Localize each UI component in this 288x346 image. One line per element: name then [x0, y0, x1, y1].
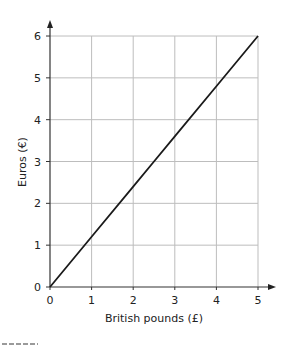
x-tick-label: 2	[130, 294, 137, 307]
cropped-text-fragment	[2, 338, 42, 346]
y-tick-labels: 0123456	[34, 30, 50, 294]
x-tick-label: 4	[213, 294, 220, 307]
x-axis-arrow-icon	[268, 284, 276, 290]
y-tick-label: 1	[34, 239, 41, 252]
y-tick-label: 4	[34, 114, 41, 127]
y-tick-label: 0	[34, 281, 41, 294]
x-tick-labels: 012345	[47, 287, 262, 307]
x-axis-label: British pounds (£)	[105, 312, 203, 325]
x-tick-label: 1	[88, 294, 95, 307]
y-axis-label: Euros (€)	[16, 137, 29, 187]
conversion-line-chart: 012345 0123456 British pounds (£) Euros …	[0, 0, 288, 346]
y-tick-label: 2	[34, 197, 41, 210]
x-tick-label: 0	[47, 294, 54, 307]
y-tick-label: 5	[34, 72, 41, 85]
y-tick-label: 6	[34, 30, 41, 43]
y-axis-arrow-icon	[47, 20, 53, 28]
x-tick-label: 3	[171, 294, 178, 307]
y-tick-label: 3	[34, 156, 41, 169]
x-tick-label: 5	[255, 294, 262, 307]
